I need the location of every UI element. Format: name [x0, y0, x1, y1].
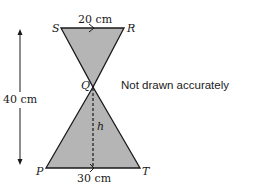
- vertex-label-p: P: [35, 165, 44, 178]
- vertex-label-r: R: [126, 22, 135, 35]
- vertex-label-s: S: [52, 22, 60, 35]
- arrow-head-down: [18, 159, 23, 165]
- bottom-width-label: 30 cm: [77, 172, 112, 185]
- top-width-label: 20 cm: [78, 13, 113, 26]
- triangle-sqr: [61, 28, 124, 87]
- arrow-head-up: [18, 29, 23, 35]
- vertex-label-q: Q: [81, 79, 90, 92]
- height-label-h: h: [97, 120, 104, 133]
- vertex-label-t: T: [142, 165, 151, 178]
- hourglass-diagram: S R Q P T h 20 cm 30 cm 40 cm Not drawn …: [0, 0, 255, 187]
- total-height-label: 40 cm: [3, 93, 38, 106]
- not-drawn-accurately-note: Not drawn accurately: [121, 79, 229, 91]
